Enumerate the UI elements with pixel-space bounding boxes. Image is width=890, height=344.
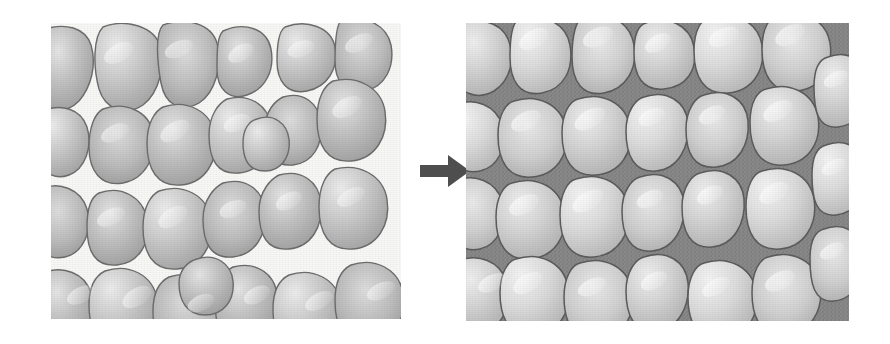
process-arrow [414, 148, 474, 194]
loose-sediment-illustration [51, 23, 401, 319]
arrow-right-icon [414, 148, 474, 194]
cemented-sandstone-illustration [466, 23, 849, 321]
panel-loose-sediment [51, 23, 401, 319]
figure-root [0, 0, 890, 344]
panel-cemented-sandstone [466, 23, 849, 321]
